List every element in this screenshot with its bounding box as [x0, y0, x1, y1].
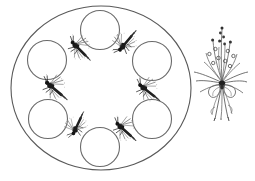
- scene-drawing: [0, 0, 255, 181]
- background: [0, 0, 255, 181]
- illustration-canvas: Line drawing of a round tray with seven …: [0, 0, 255, 181]
